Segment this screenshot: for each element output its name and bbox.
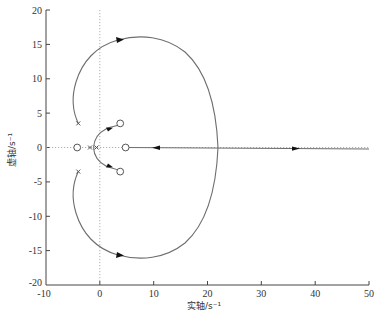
upper-outer-branch [73, 37, 218, 148]
arrow-right-icon [106, 128, 113, 132]
arrow-right-icon [292, 146, 300, 150]
y-tick-label: -15 [29, 245, 42, 256]
x-tick-label: 50 [364, 288, 374, 299]
arrow-right-icon [116, 252, 124, 258]
pole-marker-icon [76, 121, 80, 125]
x-ticks [100, 281, 369, 285]
upper-inner-branch [94, 124, 121, 148]
x-tick-label: 30 [256, 288, 266, 299]
zero-marker-icon [117, 120, 124, 127]
arrow-right-icon [116, 37, 124, 43]
x-tick-label: 0 [97, 288, 102, 299]
y-axis-label: 虚轴/s⁻¹ [6, 133, 17, 167]
lower-inner-branch [94, 148, 121, 172]
x-tick-label: 40 [310, 288, 320, 299]
y-tick-label: 5 [37, 108, 42, 119]
arrow-left-icon [152, 146, 160, 150]
real-axis-branch [126, 148, 369, 150]
y-ticks [46, 10, 50, 251]
y-tick-label: -5 [34, 176, 42, 187]
lower-outer-branch [73, 148, 218, 259]
y-tick-label: 0 [37, 142, 42, 153]
arrow-right-icon [106, 164, 113, 168]
x-tick-labels: -10 0 10 20 30 40 50 [37, 288, 374, 299]
y-tick-labels: 20 15 10 5 0 -5 -10 -15 -20 [29, 5, 42, 289]
zero-marker-icon [117, 168, 124, 175]
y-tick-label: 10 [32, 73, 42, 84]
zero-marker-icon [122, 144, 129, 151]
x-tick-label: -10 [37, 288, 50, 299]
x-axis-label: 实轴/s⁻¹ [187, 300, 221, 311]
y-tick-label: 20 [32, 5, 42, 16]
pole-marker-icon [76, 170, 80, 174]
y-tick-label: 15 [32, 39, 42, 50]
y-tick-label: -10 [29, 211, 42, 222]
x-tick-label: 20 [203, 288, 213, 299]
x-tick-label: 10 [149, 288, 159, 299]
zero-marker-icon [74, 144, 81, 151]
y-tick-label: -20 [29, 277, 42, 288]
root-locus-chart: 20 15 10 5 0 -5 -10 -15 -20 -10 0 10 20 … [0, 0, 383, 335]
